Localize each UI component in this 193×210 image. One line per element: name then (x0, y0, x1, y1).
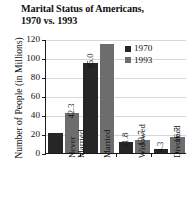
bar-chart-figure: Marital Status of Americans, 1970 vs. 19… (0, 0, 193, 210)
y-axis-tick-label: 80 (31, 73, 40, 82)
x-axis-category-label: Never Married (68, 130, 87, 158)
y-axis-title: Number of People (in Millions) (14, 23, 24, 173)
y-axis-tick-label: 40 (31, 111, 40, 120)
y-axis-tick (42, 116, 47, 117)
legend-label: 1993 (134, 55, 152, 67)
y-axis-tick (42, 40, 47, 41)
gridline (46, 59, 186, 60)
y-axis-tick-label: 20 (31, 130, 40, 139)
legend-label: 1970 (134, 43, 152, 55)
y-axis-tick (42, 59, 47, 60)
bar: 4.3 (154, 149, 169, 153)
chart-legend: 19701993 (125, 43, 152, 66)
y-axis-tick-label: 100 (26, 54, 40, 63)
gridline (46, 97, 186, 98)
legend-item: 1970 (125, 43, 152, 55)
bar (48, 133, 63, 153)
legend-item: 1993 (125, 55, 152, 67)
y-axis-tick (42, 97, 47, 98)
x-axis-tick (116, 154, 117, 157)
x-axis-category-label: Married (103, 130, 112, 158)
y-axis-tick (42, 154, 47, 155)
legend-swatch-icon (125, 57, 131, 63)
chart-title: Marital Status of Americans, 1970 vs. 19… (21, 3, 189, 26)
y-axis-tick-label: 120 (26, 35, 40, 44)
x-axis-category-label: Divorced (173, 125, 182, 158)
bar: 11.8 (119, 142, 134, 153)
gridline (46, 40, 186, 41)
gridline (46, 78, 186, 79)
y-axis-tick-label: 0 (35, 149, 40, 158)
x-axis-tick (151, 154, 152, 157)
x-axis-tick (80, 154, 81, 157)
legend-swatch-icon (125, 46, 131, 52)
y-axis-tick (42, 78, 47, 79)
y-axis-tick-label: 60 (31, 92, 40, 101)
y-axis-tick (42, 135, 47, 136)
x-axis-category-label: Widowed (138, 124, 147, 158)
